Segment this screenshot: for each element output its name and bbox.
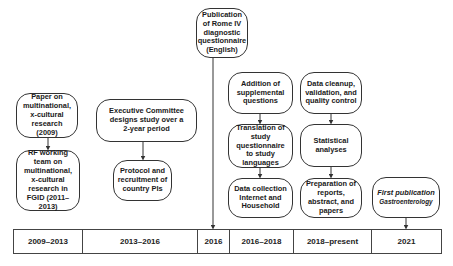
box-rf-team-text: RF working team on multinational, x-cult… (20, 149, 76, 211)
box-exec-committee: Executive Committee designs study over a… (96, 99, 197, 142)
box-data-collection: Data collection Internet and Household (228, 178, 293, 218)
timeline-bar: 2009–2013 2013–2016 2016 2016–2018 2018–… (13, 229, 442, 254)
box-statistical-text: Statistical analyses (304, 137, 358, 155)
box-first-publication-journal: Gastroenterology (379, 198, 432, 206)
timeline-segment: 2018–present (294, 230, 372, 253)
box-preparation: Preparation of reports, abstract, and pa… (300, 178, 362, 218)
box-translation-text: Translation of study questionnaire to st… (232, 124, 289, 168)
timeline-segment: 2009–2013 (14, 230, 83, 253)
box-preparation-text: Preparation of reports, abstract, and pa… (304, 180, 358, 216)
box-protocol: Protocol and recruitment of country PIs (113, 160, 172, 201)
box-rf-team: RF working team on multinational, x-cult… (16, 150, 80, 211)
box-translation: Translation of study questionnaire to st… (228, 124, 293, 168)
box-rome-iv: Publication of Rome IV diagnostic questi… (196, 8, 248, 58)
box-paper: Paper on multinational, x-cultural resea… (16, 93, 78, 138)
box-rome-iv-text: Publication of Rome IV diagnostic questi… (198, 11, 246, 55)
timeline-segment: 2021 (372, 230, 441, 253)
box-first-publication: First publication Gastroenterology (372, 177, 440, 218)
box-paper-text: Paper on multinational, x-cultural resea… (20, 93, 74, 137)
box-addition: Addition of supplemental questions (228, 72, 293, 114)
box-protocol-text: Protocol and recruitment of country PIs (117, 167, 168, 194)
timeline-segment: 2016 (198, 230, 230, 253)
box-data-cleanup-text: Data cleanup, validation, and quality co… (304, 80, 358, 107)
box-statistical: Statistical analyses (300, 124, 362, 167)
box-data-collection-text: Data collection Internet and Household (232, 185, 289, 212)
box-addition-text: Addition of supplemental questions (232, 80, 289, 107)
box-data-cleanup: Data cleanup, validation, and quality co… (300, 72, 362, 114)
box-exec-committee-text: Executive Committee designs study over a… (109, 107, 184, 134)
box-first-publication-title: First publication (377, 189, 434, 198)
timeline-segment: 2016–2018 (230, 230, 294, 253)
timeline-segment: 2013–2016 (83, 230, 198, 253)
